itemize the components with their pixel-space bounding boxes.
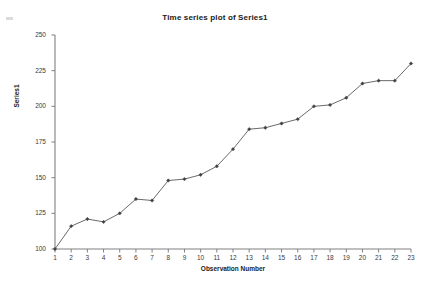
plot-area — [0, 0, 430, 284]
axes-group — [52, 35, 412, 253]
time-series-chart: Time series plot of Series1 Series1 Obse… — [0, 0, 430, 284]
data-point-marker — [377, 79, 380, 82]
data-point-marker — [280, 122, 283, 125]
data-point-marker — [328, 103, 331, 106]
data-point-marker — [86, 217, 89, 220]
series-line-group — [55, 64, 411, 249]
series-marker-group — [53, 62, 412, 251]
data-point-marker — [199, 173, 202, 176]
data-point-marker — [102, 220, 105, 223]
series-line — [55, 64, 411, 249]
data-point-marker — [264, 126, 267, 129]
data-point-marker — [183, 177, 186, 180]
